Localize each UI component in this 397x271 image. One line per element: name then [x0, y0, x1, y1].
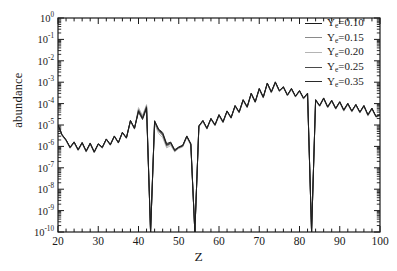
y-tick-label: 10-5	[38, 118, 55, 131]
y-tick-label: 10-2	[38, 54, 55, 67]
legend-swatch-line	[305, 23, 322, 24]
y-tick-label: 10-7	[38, 161, 55, 174]
legend-item: Ye=0.10	[305, 16, 389, 31]
legend-swatch-line	[305, 52, 322, 53]
x-tick-label: 80	[285, 235, 315, 247]
legend-label: Ye=0.20	[327, 45, 364, 59]
legend-label: Ye=0.35	[327, 75, 364, 89]
legend-label: Ye=0.25	[327, 60, 364, 74]
x-tick-label: 30	[83, 235, 113, 247]
legend: Ye=0.10Ye=0.15Ye=0.20Ye=0.25Ye=0.35	[305, 16, 389, 89]
series-line	[58, 82, 380, 232]
legend-label: Ye=0.10	[327, 16, 364, 30]
y-tick-label: 10-9	[38, 204, 55, 217]
series-line	[58, 83, 380, 232]
legend-swatch-line	[305, 37, 322, 38]
y-tick-label: 10-8	[38, 182, 55, 195]
legend-item: Ye=0.35	[305, 74, 389, 89]
series-line	[58, 83, 380, 232]
x-tick-label: 50	[164, 235, 194, 247]
y-axis-label: abundance	[11, 50, 27, 150]
y-tick-label: 10-6	[38, 139, 55, 152]
y-tick-label: 100	[40, 11, 54, 24]
legend-item: Ye=0.15	[305, 31, 389, 46]
x-tick-label: 40	[124, 235, 154, 247]
legend-item: Ye=0.20	[305, 45, 389, 60]
y-tick-label: 10-3	[38, 75, 55, 88]
series-line	[58, 82, 380, 232]
abundance-vs-z-chart: 10010-110-210-310-410-510-610-710-810-91…	[0, 0, 397, 271]
legend-item: Ye=0.25	[305, 60, 389, 75]
x-tick-label: 100	[365, 235, 395, 247]
x-tick-label: 70	[244, 235, 274, 247]
x-axis-label: Z	[0, 249, 397, 265]
legend-swatch-line	[305, 81, 322, 82]
y-tick-label: 10-4	[38, 97, 55, 110]
legend-swatch-line	[305, 67, 322, 68]
x-tick-label: 90	[325, 235, 355, 247]
x-tick-label: 20	[43, 235, 73, 247]
legend-label: Ye=0.15	[327, 31, 364, 45]
y-tick-label: 10-1	[38, 32, 55, 45]
series-line	[58, 82, 380, 232]
x-tick-label: 60	[204, 235, 234, 247]
data-curves	[58, 82, 380, 232]
